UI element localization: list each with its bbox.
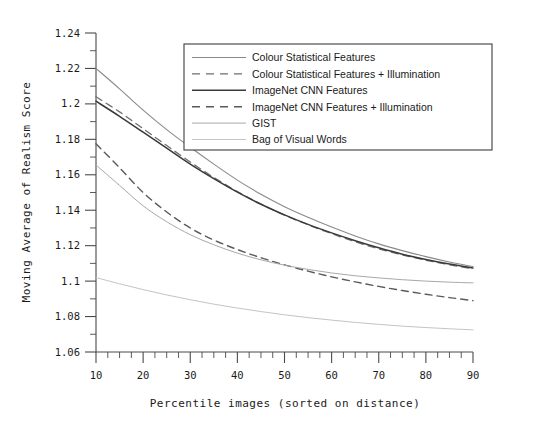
y-axis-title: Moving Average of Realism Score [20,82,33,303]
x-tick-label: 30 [184,369,197,381]
x-tick-label: 60 [325,369,338,381]
y-tick-label: 1.12 [55,239,80,251]
y-tick-label: 1.24 [55,27,80,39]
legend-label-0: Colour Statistical Features [252,51,375,63]
y-tick-label: 1.08 [55,310,80,322]
x-tick-label: 90 [467,369,480,381]
realism-score-line-chart: Moving Average of Realism Score Percenti… [0,0,533,426]
legend-label-5: Bag of Visual Words [252,133,347,145]
y-tick-label: 1.06 [55,346,80,358]
y-tick-label: 1.18 [55,133,80,145]
y-tick-label: 1.1 [61,275,80,287]
chart-legend[interactable]: Colour Statistical FeaturesColour Statis… [184,44,492,150]
x-tick-label: 10 [90,369,103,381]
y-tick-label: 1.22 [55,62,80,74]
x-tick-label: 70 [372,369,385,381]
x-tick-label: 20 [137,369,150,381]
legend-label-4: GIST [252,117,277,129]
y-tick-label: 1.2 [61,97,80,109]
y-tick-label: 1.14 [55,204,80,216]
x-axis-tick-labels: 102030405060708090 [90,369,480,381]
legend-label-3: ImageNet CNN Features + Illumination [252,101,433,113]
y-tick-label: 1.16 [55,168,80,180]
x-tick-label: 40 [231,369,244,381]
legend-label-2: ImageNet CNN Features [252,84,368,96]
legend-label-1: Colour Statistical Features + Illuminati… [252,68,440,80]
x-tick-label: 50 [278,369,291,381]
x-axis-title: Percentile images (sorted on distance) [150,397,421,410]
x-tick-label: 80 [420,369,433,381]
